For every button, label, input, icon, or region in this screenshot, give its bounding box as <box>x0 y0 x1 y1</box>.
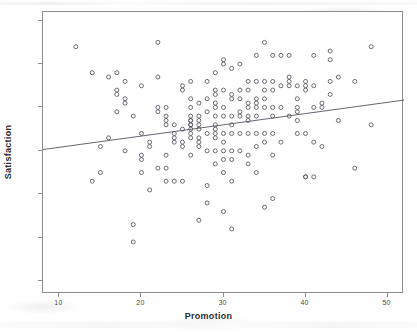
data-point <box>205 149 209 153</box>
data-point <box>139 84 143 88</box>
data-point <box>295 84 299 88</box>
data-point <box>205 79 209 83</box>
data-point <box>197 114 201 118</box>
data-point <box>353 166 357 170</box>
data-point <box>197 144 201 148</box>
plot-frame <box>42 11 403 293</box>
data-point <box>164 118 168 122</box>
data-point <box>115 92 119 96</box>
data-point <box>213 162 217 166</box>
data-point <box>180 127 184 131</box>
data-point <box>304 131 308 135</box>
data-point <box>271 53 275 57</box>
data-point <box>246 162 250 166</box>
data-point <box>189 136 193 140</box>
data-point <box>287 53 291 57</box>
x-tick-mark <box>305 293 306 297</box>
scatterplot-screenshot: Satisfaction 90807060504030 1020304050 P… <box>0 0 417 332</box>
data-point <box>148 140 152 144</box>
data-point <box>205 201 209 205</box>
data-point <box>287 75 291 79</box>
data-point <box>230 92 234 96</box>
data-point <box>205 131 209 135</box>
data-point <box>90 71 94 75</box>
data-point <box>254 53 258 57</box>
data-point <box>263 88 267 92</box>
data-point <box>312 140 316 144</box>
y-axis-title: Satisfaction <box>3 125 13 180</box>
data-point <box>148 144 152 148</box>
data-point <box>369 123 373 127</box>
data-point <box>254 144 258 148</box>
data-point <box>328 58 332 62</box>
data-point <box>263 131 267 135</box>
data-point <box>189 97 193 101</box>
data-point <box>213 101 217 105</box>
data-point <box>123 79 127 83</box>
x-tick-mark <box>58 293 59 297</box>
data-point <box>139 171 143 175</box>
x-tick-label: 10 <box>47 299 69 306</box>
data-point <box>107 136 111 140</box>
data-point <box>230 66 234 70</box>
data-point <box>213 114 217 118</box>
data-point <box>254 114 258 118</box>
data-point <box>172 136 176 140</box>
data-point <box>353 79 357 83</box>
x-tick-label: 20 <box>129 299 151 306</box>
data-point <box>304 84 308 88</box>
data-point <box>189 131 193 135</box>
data-point <box>263 97 267 101</box>
data-point <box>156 40 160 44</box>
data-point <box>205 184 209 188</box>
data-point <box>123 97 127 101</box>
data-point <box>189 153 193 157</box>
x-tick-label: 30 <box>212 299 234 306</box>
data-point <box>246 131 250 135</box>
data-point <box>222 88 226 92</box>
data-point <box>222 149 226 153</box>
data-point <box>115 110 119 114</box>
data-point <box>238 110 242 114</box>
data-point <box>246 101 250 105</box>
data-point <box>279 140 283 144</box>
data-point <box>139 131 143 135</box>
data-point <box>222 158 226 162</box>
data-point <box>271 88 275 92</box>
data-points-layer <box>43 12 402 292</box>
data-point <box>238 88 242 92</box>
data-point <box>328 92 332 96</box>
data-point <box>131 240 135 244</box>
data-point <box>213 105 217 109</box>
data-point <box>156 110 160 114</box>
data-point <box>246 88 250 92</box>
data-point <box>295 118 299 122</box>
data-point <box>180 140 184 144</box>
data-point <box>304 175 308 179</box>
data-point <box>197 136 201 140</box>
data-point <box>164 105 168 109</box>
data-point <box>222 58 226 62</box>
data-point <box>189 79 193 83</box>
data-point <box>271 114 275 118</box>
data-point <box>271 197 275 201</box>
data-point <box>115 71 119 75</box>
data-point <box>74 45 78 49</box>
data-point <box>180 84 184 88</box>
data-point <box>369 45 373 49</box>
data-point <box>98 171 102 175</box>
data-point <box>98 144 102 148</box>
data-point <box>123 101 127 105</box>
data-point <box>304 88 308 92</box>
x-tick-mark <box>140 293 141 297</box>
data-point <box>222 131 226 135</box>
data-point <box>115 88 119 92</box>
data-point <box>246 153 250 157</box>
data-point <box>238 97 242 101</box>
data-point <box>123 149 127 153</box>
data-point <box>213 127 217 131</box>
data-point <box>172 140 176 144</box>
data-point <box>230 123 234 127</box>
x-axis-title: Promotion <box>0 311 417 321</box>
data-point <box>279 84 283 88</box>
